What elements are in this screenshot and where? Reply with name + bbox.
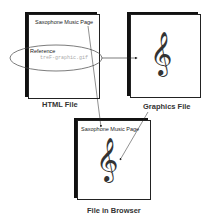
reference-highlight-ellipse: [10, 45, 102, 71]
graphic-to-browser-arrow: [120, 112, 148, 160]
title-to-browser-arrow: [88, 26, 101, 127]
connector-overlay: [0, 0, 209, 220]
